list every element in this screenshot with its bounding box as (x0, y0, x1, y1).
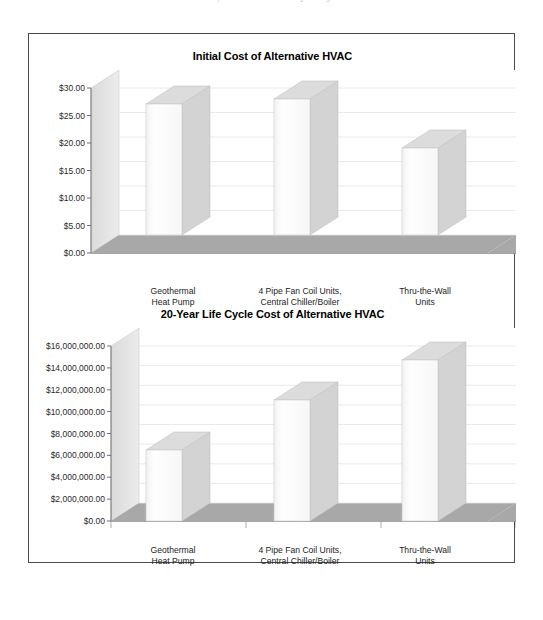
y-axis-labels-life-cycle-cost: $16,000,000.00 $14,000,000.00 $12,000,00… (29, 328, 105, 538)
bar-initial-thruwall (402, 130, 466, 235)
y-axis-labels-initial-cost: $30.00 $25.00 $20.00 $15.00 $10.00 $5.00… (29, 70, 85, 270)
y-tick-initial-6: $30.00 (59, 84, 85, 93)
x-label-initial-fancoil: 4 Pipe Fan Coil Units, Central Chiller/B… (225, 286, 375, 308)
y-tick-initial-0: $0.00 (64, 249, 85, 258)
chart-life-cycle-cost: 20-Year Life Cycle Cost of Alternative H… (29, 306, 516, 562)
y-tick-lifecycle-4: $8,000,000.00 (51, 429, 105, 438)
chart-svg-initial-cost (29, 70, 516, 280)
bar-lifecycle-fancoil (274, 382, 338, 521)
y-tick-lifecycle-3: $6,000,000.00 (51, 451, 105, 460)
running-header: by John Deere Hudson Engineering (0, 0, 543, 4)
plot-area-initial-cost: $30.00 $25.00 $20.00 $15.00 $10.00 $5.00… (29, 70, 516, 270)
chart-initial-cost: Initial Cost of Alternative HVAC (29, 38, 516, 303)
x-label-lifecycle-fancoil: 4 Pipe Fan Coil Units, Central Chiller/B… (225, 545, 375, 567)
y-tick-initial-3: $15.00 (59, 166, 85, 175)
y-tick-initial-2: $10.00 (59, 194, 85, 203)
x-label-initial-geothermal: Geothermal Heat Pump (113, 286, 233, 308)
figure-frame: Initial Cost of Alternative HVAC (28, 33, 515, 563)
y-tick-lifecycle-1: $2,000,000.00 (51, 495, 105, 504)
x-label-lifecycle-geothermal: Geothermal Heat Pump (113, 545, 233, 567)
chart-title-initial-cost: Initial Cost of Alternative HVAC (29, 50, 516, 62)
x-label-initial-thruwall: Thru-the-Wall Units (365, 286, 485, 308)
bar-initial-geothermal (146, 86, 210, 235)
bar-lifecycle-geothermal (146, 432, 210, 521)
chart-title-life-cycle-cost: 20-Year Life Cycle Cost of Alternative H… (29, 308, 516, 320)
y-tick-lifecycle-8: $16,000,000.00 (46, 342, 105, 351)
plot-area-life-cycle-cost: $16,000,000.00 $14,000,000.00 $12,000,00… (29, 328, 516, 538)
y-tick-lifecycle-6: $12,000,000.00 (46, 385, 105, 394)
y-tick-lifecycle-5: $10,000,000.00 (46, 407, 105, 416)
y-tick-initial-5: $25.00 (59, 111, 85, 120)
y-tick-lifecycle-7: $14,000,000.00 (46, 363, 105, 372)
bar-lifecycle-thruwall (402, 342, 466, 521)
bar-initial-fancoil (274, 81, 338, 235)
y-tick-lifecycle-0: $0.00 (84, 517, 105, 526)
x-label-lifecycle-thruwall: Thru-the-Wall Units (365, 545, 485, 567)
y-tick-initial-1: $5.00 (64, 221, 85, 230)
y-tick-lifecycle-2: $4,000,000.00 (51, 473, 105, 482)
y-tick-initial-4: $20.00 (59, 139, 85, 148)
